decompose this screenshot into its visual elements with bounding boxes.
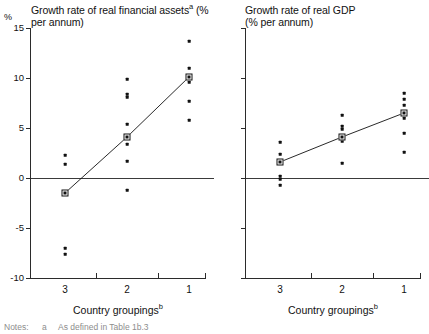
x-axis-tick <box>158 273 159 278</box>
data-point <box>341 114 344 117</box>
trend-line-real-gdp <box>245 28 421 278</box>
chart-panel-financial-assets: % Growth rate of real financial assetsa … <box>0 0 214 334</box>
figure-container: % Growth rate of real financial assetsa … <box>0 0 429 334</box>
data-point <box>279 184 282 187</box>
x-axis-end-cap <box>205 273 206 279</box>
y-axis-tick <box>26 278 31 279</box>
y-axis-tick <box>26 228 31 229</box>
mean-marker <box>124 134 131 141</box>
y-axis-tick <box>241 228 246 229</box>
data-point <box>188 119 191 122</box>
data-point <box>341 162 344 165</box>
y-axis-tick <box>241 28 246 29</box>
trend-line-financial-assets <box>30 28 206 278</box>
mean-marker <box>277 159 284 166</box>
y-axis-tick <box>26 78 31 79</box>
panel-title-subline: (% per annum) <box>245 16 313 28</box>
y-axis-tick-label: 15 <box>2 22 24 33</box>
mean-marker <box>186 74 193 81</box>
x-axis-title-text: Country groupings <box>288 304 374 316</box>
y-axis-tick <box>26 128 31 129</box>
data-point <box>188 40 191 43</box>
mean-marker <box>401 110 408 117</box>
data-point <box>341 128 344 131</box>
mean-marker <box>62 190 69 197</box>
data-point <box>188 67 191 70</box>
figure-notes: Notes:aAs defined in Table 1b.3 <box>4 322 149 332</box>
panel-title-text: Growth rate of real financial assets <box>31 4 189 16</box>
data-point <box>126 78 129 81</box>
panel-title-financial-assets: Growth rate of real financial assetsa (%… <box>31 1 211 29</box>
data-point <box>64 163 67 166</box>
data-point <box>64 253 67 256</box>
data-point <box>126 189 129 192</box>
y-axis-tick-label: -5 <box>2 222 24 233</box>
data-point <box>188 81 191 84</box>
data-point <box>126 123 129 126</box>
data-point <box>64 154 67 157</box>
x-axis-tick <box>96 273 97 278</box>
y-axis-tick <box>241 178 246 179</box>
data-point <box>403 151 406 154</box>
y-axis-tick-label: 10 <box>2 72 24 83</box>
data-point <box>126 143 129 146</box>
data-point <box>403 104 406 107</box>
data-point <box>188 100 191 103</box>
x-axis-title-superscript: b <box>374 302 378 311</box>
x-axis-tick-label: 2 <box>332 284 352 295</box>
x-axis-tick <box>311 273 312 278</box>
x-axis-title-superscript: b <box>159 302 163 311</box>
panel-title-superscript: a <box>189 2 193 11</box>
data-point <box>279 141 282 144</box>
x-axis-tick-label: 3 <box>55 284 75 295</box>
data-point <box>126 96 129 99</box>
data-point <box>403 132 406 135</box>
x-axis-title-financial-assets: Country groupingsb <box>30 302 206 316</box>
x-axis-tick-label: 3 <box>270 284 290 295</box>
y-axis-tick-label: -10 <box>2 272 24 283</box>
x-axis-title-text: Country groupings <box>73 304 159 316</box>
y-axis-tick <box>26 178 31 179</box>
plot-area-financial-assets: Country groupingsb 151050-5-10321 <box>30 28 206 278</box>
y-axis-tick <box>241 128 246 129</box>
x-axis-tick-label: 1 <box>179 284 199 295</box>
y-axis-tick <box>26 28 31 29</box>
x-axis-end-cap <box>420 273 421 279</box>
mean-marker <box>339 134 346 141</box>
y-axis-tick-label: 0 <box>2 172 24 183</box>
panel-title-real-gdp: Growth rate of real GDP(% per annum) <box>245 1 425 29</box>
data-point <box>403 92 406 95</box>
plot-area-real-gdp: Country groupingsb 321 <box>245 28 421 278</box>
x-axis-title-real-gdp: Country groupingsb <box>245 302 421 316</box>
data-point <box>64 247 67 250</box>
y-axis-tick <box>241 78 246 79</box>
data-point <box>279 178 282 181</box>
x-axis-tick-label: 2 <box>117 284 137 295</box>
x-axis-tick <box>373 273 374 278</box>
y-axis-unit-label: % <box>4 12 12 22</box>
data-point <box>279 153 282 156</box>
x-axis-tick-label: 1 <box>394 284 414 295</box>
y-axis-tick-label: 5 <box>2 122 24 133</box>
notes-marker: a <box>42 322 58 332</box>
chart-panel-real-gdp: Growth rate of real GDP(% per annum) Cou… <box>215 0 429 334</box>
y-axis-tick <box>241 278 246 279</box>
x-axis-line <box>245 278 421 279</box>
panel-title-text: Growth rate of real GDP <box>245 4 355 16</box>
x-axis-line <box>30 278 206 279</box>
data-point <box>126 160 129 163</box>
data-point <box>403 98 406 101</box>
notes-text: As defined in Table 1b.3 <box>58 322 149 332</box>
data-point <box>403 117 406 120</box>
notes-label: Notes: <box>4 322 42 332</box>
